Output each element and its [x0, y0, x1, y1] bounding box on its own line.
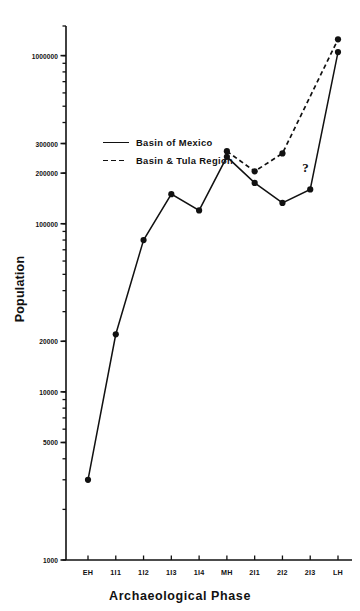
legend-solid-line-icon: [103, 138, 129, 148]
data-point: [307, 186, 313, 192]
y-tick-label: 100000: [35, 220, 58, 227]
data-point: [252, 180, 258, 186]
y-tick-label: 5000: [43, 439, 58, 446]
data-point: [85, 477, 91, 483]
y-tick-label: 1000: [43, 557, 58, 564]
x-axis-title: Archaeological Phase: [0, 589, 360, 603]
legend-item-basin-and-tula-region: Basin & Tula Region: [103, 152, 233, 170]
data-point: [335, 36, 341, 42]
legend-dashed-line-icon: [103, 156, 129, 166]
x-tick-label-1i3: 1I3: [166, 568, 177, 577]
data-point: [335, 49, 341, 55]
data-point: [113, 331, 119, 337]
x-tick-label-lh: LH: [333, 568, 343, 577]
x-tick-label-1i2: 1I2: [138, 568, 149, 577]
legend-label-basin-of-mexico: Basin of Mexico: [136, 134, 213, 152]
y-tick-label: 300000: [35, 140, 58, 147]
y-tick-label: 10000: [39, 388, 58, 395]
series-lines: [88, 39, 338, 479]
data-point: [196, 207, 202, 213]
x-tick-label-2i3: 2I3: [305, 568, 316, 577]
unknown-value-question-mark: ?: [302, 160, 309, 176]
data-point: [279, 150, 285, 156]
series-markers: [85, 36, 341, 483]
x-tick-label-1i1: 1I1: [110, 568, 121, 577]
data-point: [168, 191, 174, 197]
data-point: [252, 168, 258, 174]
x-tick-label-2i1: 2I1: [249, 568, 260, 577]
y-tick-label: 1000000: [32, 52, 58, 59]
legend-item-basin-of-mexico: Basin of Mexico: [103, 134, 233, 152]
y-axis-title: Population: [13, 239, 27, 339]
chart-plot-area: [0, 0, 360, 611]
y-tick-label: 200000: [35, 170, 58, 177]
chart-legend: Basin of Mexico Basin & Tula Region: [103, 134, 233, 170]
y-tick-label: 20000: [39, 338, 58, 345]
x-tick-label-1i4: 1I4: [194, 568, 205, 577]
population-by-archaeological-phase-chart: Population Archaeological Phase 10005000…: [0, 0, 360, 611]
data-point: [140, 237, 146, 243]
y-axis-ticks: [61, 26, 67, 560]
x-tick-label-eh: EH: [83, 568, 94, 577]
legend-label-basin-and-tula-region: Basin & Tula Region: [136, 152, 233, 170]
x-tick-label-2i2: 2I2: [277, 568, 288, 577]
data-point: [279, 200, 285, 206]
x-tick-label-mh: MH: [221, 568, 233, 577]
